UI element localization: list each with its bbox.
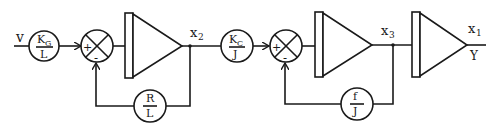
plus-sign: +	[83, 41, 92, 54]
plus-sign: +	[272, 41, 281, 54]
output-label: Y	[469, 49, 479, 63]
gain-block-f-over-j: f J	[341, 88, 373, 120]
feedback-line-2-right	[373, 45, 393, 104]
gain-denominator: L	[146, 107, 154, 120]
signal-x1-sub: 1	[476, 28, 482, 38]
gain-block-r-over-l: R L	[134, 90, 166, 122]
gain-numerator: R	[146, 92, 155, 105]
signal-x3-label: x	[381, 23, 389, 38]
gain-denominator: J	[232, 48, 237, 61]
gain-denominator: L	[40, 48, 48, 61]
gain-block-kg-over-l: K G L	[29, 31, 59, 61]
summing-junction-2: + -	[270, 30, 302, 65]
gain-denominator: J	[352, 105, 357, 118]
gain-block-kc-over-j: K C J	[221, 30, 253, 62]
minus-sign: -	[283, 51, 287, 65]
minus-sign: -	[94, 51, 98, 65]
integrator-1	[125, 13, 182, 78]
signal-x1-label: x	[468, 21, 476, 36]
input-label: v	[15, 29, 24, 45]
feedback-line-1-right	[166, 46, 190, 106]
summing-junction-1: + -	[81, 30, 113, 65]
signal-x3-sub: 3	[389, 30, 395, 40]
signal-x2-label: x	[190, 25, 198, 40]
signal-x2-sub: 2	[198, 32, 204, 42]
integrator-2	[315, 12, 372, 77]
integrator-3	[412, 12, 467, 77]
block-diagram: v K G L + - x 2 R L K C J	[0, 0, 494, 138]
